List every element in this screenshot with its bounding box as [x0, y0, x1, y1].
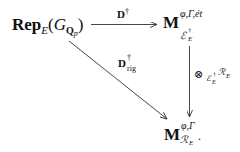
arrow-diagonal [69, 41, 167, 119]
label-vertical-ring: ℛ [218, 68, 225, 77]
label-vertical-sub-ring: ℰ [206, 75, 211, 83]
source-paren-close: ) [78, 15, 84, 34]
bottom-right-sub-ring-sub: E [189, 140, 193, 147]
diagonal-label-sup: † [127, 54, 131, 62]
source-main: Rep [12, 15, 41, 34]
label-diagonal: D [118, 58, 126, 69]
horizontal-label-main: D [117, 8, 125, 20]
source-group-sub: Q [66, 25, 74, 36]
top-right-sub-ring: ℰ [180, 31, 186, 41]
diagonal-label-main: D [118, 57, 126, 69]
label-vertical-ring-sub: E [226, 73, 230, 80]
top-right-sup: φ,Γ,ét [180, 9, 202, 19]
bottom-right-sub-ring: ℛ [180, 135, 188, 145]
top-right-sub-ring-sup: † [188, 27, 192, 34]
label-vertical-sub-ring-sup: † [213, 71, 216, 77]
bottom-right-main: M [164, 125, 180, 144]
source-sub: E [41, 24, 48, 36]
source-group-sub-sub: p [74, 29, 78, 38]
node-top-right: M [163, 14, 179, 31]
label-horizontal: D† [117, 9, 129, 20]
bottom-right-sup: φ,Γ [181, 121, 195, 131]
bottom-right-trailing: . [198, 130, 201, 142]
label-vertical-sub-ring-sub: E [212, 79, 216, 85]
horizontal-label-sup: † [125, 7, 129, 16]
top-right-main: M [163, 13, 179, 32]
node-bottom-right: M [164, 126, 180, 143]
label-vertical-op: ⊗ [194, 69, 203, 80]
node-source: RepE(GQp) [12, 16, 83, 33]
top-right-sub-ring-sub: E [188, 36, 192, 43]
source-group: G [54, 15, 66, 34]
diagonal-label-sub: rig [127, 65, 136, 73]
